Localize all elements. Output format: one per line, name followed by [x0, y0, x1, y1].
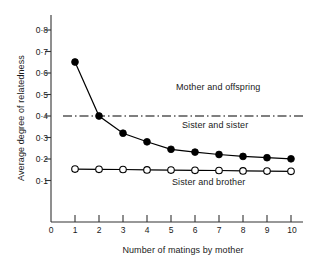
- data-point: [240, 153, 247, 160]
- data-point: [288, 168, 295, 175]
- annotation-sister-and-sister: Sister and sister: [182, 121, 248, 130]
- data-point: [240, 168, 247, 175]
- data-point: [216, 167, 223, 174]
- series-markers-sister-and-sister: [72, 59, 295, 163]
- data-point: [168, 146, 175, 153]
- plot-canvas: [0, 0, 322, 265]
- series-line-sister-and-sister: [75, 62, 291, 159]
- y-axis-ticks: [45, 30, 51, 181]
- series-line-sister-and-brother: [75, 169, 291, 171]
- x-axis-ticks: [75, 215, 291, 222]
- relatedness-chart: Average degree of relatedness 0·8 0·7 0·…: [0, 0, 322, 265]
- annotation-sister-and-brother: Sister and brother: [172, 178, 245, 187]
- data-point: [144, 167, 151, 174]
- annotation-mother-and-offspring: Mother and offspring: [176, 83, 260, 92]
- data-point: [120, 130, 127, 137]
- data-point: [144, 138, 151, 145]
- axis-lines: [51, 15, 303, 222]
- data-point: [72, 166, 79, 173]
- data-point: [288, 155, 295, 162]
- data-point: [192, 149, 199, 156]
- data-point: [96, 113, 103, 120]
- data-point: [96, 166, 103, 173]
- data-point: [120, 166, 127, 173]
- data-point: [192, 167, 199, 174]
- data-point: [216, 151, 223, 158]
- data-point: [168, 167, 175, 174]
- data-point: [264, 168, 271, 175]
- data-point: [72, 59, 79, 66]
- data-point: [264, 154, 271, 161]
